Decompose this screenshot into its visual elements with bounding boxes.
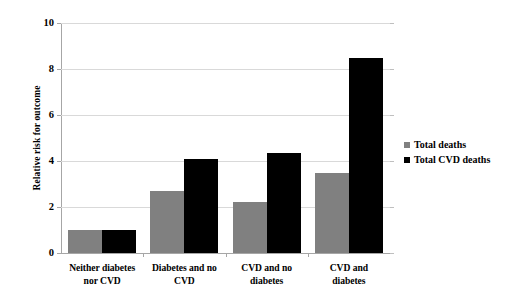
bar	[267, 153, 301, 253]
bar-chart: Relative risk for outcome 0246810 Neithe…	[0, 0, 519, 307]
bar	[68, 230, 102, 253]
y-tick-mark	[57, 207, 61, 208]
x-axis-label-line: CVD	[141, 275, 227, 288]
x-axis-label: Diabetes and noCVD	[141, 262, 227, 287]
bar	[233, 202, 267, 253]
y-tick-mark	[57, 115, 61, 116]
y-tick-label: 6	[49, 110, 54, 121]
y-tick-mark-right	[390, 69, 394, 70]
y-tick-mark	[57, 23, 61, 24]
y-tick-mark	[57, 69, 61, 70]
gridline	[61, 23, 390, 24]
legend-swatch-icon	[404, 142, 410, 148]
gridline	[61, 115, 390, 116]
legend-label: Total CVD deaths	[414, 155, 490, 165]
y-tick-label: 0	[49, 248, 54, 259]
bar	[150, 191, 184, 253]
y-tick-mark	[57, 253, 61, 254]
x-tick-mark	[143, 253, 144, 257]
x-axis-label: Neither diabetesnor CVD	[59, 262, 145, 287]
x-tick-mark	[308, 253, 309, 257]
gridline	[61, 161, 390, 162]
x-axis-label-line: nor CVD	[59, 275, 145, 288]
legend-label: Total deaths	[414, 140, 466, 150]
chart-legend: Total deathsTotal CVD deaths	[404, 137, 516, 167]
bar	[184, 159, 218, 253]
legend-item: Total CVD deaths	[404, 152, 516, 167]
y-tick-mark-right	[390, 253, 394, 254]
y-axis-title: Relative risk for outcome	[32, 38, 42, 238]
bar	[349, 58, 383, 254]
gridline	[61, 69, 390, 70]
y-tick-mark	[57, 161, 61, 162]
x-axis-label-line: Neither diabetes	[59, 262, 145, 275]
y-tick-mark-right	[390, 161, 394, 162]
legend-item: Total deaths	[404, 137, 516, 152]
y-tick-mark-right	[390, 207, 394, 208]
y-tick-label: 4	[49, 156, 54, 167]
x-axis-label-line: diabetes	[306, 275, 392, 288]
x-axis-label-line: CVD and no	[224, 262, 310, 275]
x-axis-label-line: CVD and	[306, 262, 392, 275]
plot-area: 0246810	[61, 23, 390, 253]
legend-swatch-icon	[404, 157, 410, 163]
bar	[315, 173, 349, 254]
y-tick-label: 10	[44, 18, 55, 29]
x-axis-label-line: diabetes	[224, 275, 310, 288]
y-tick-label: 2	[49, 202, 54, 213]
y-tick-mark-right	[390, 115, 394, 116]
y-tick-label: 8	[49, 64, 54, 75]
x-axis-label: CVD anddiabetes	[306, 262, 392, 287]
x-axis-label-line: Diabetes and no	[141, 262, 227, 275]
x-axis-label: CVD and nodiabetes	[224, 262, 310, 287]
y-tick-mark-right	[390, 23, 394, 24]
bar	[102, 230, 136, 253]
x-tick-mark	[226, 253, 227, 257]
